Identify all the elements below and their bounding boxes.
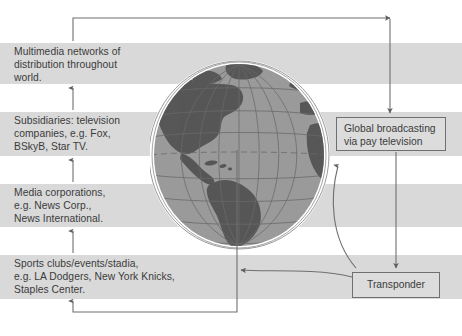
- label-media-corporations: Media corporations, e.g. News Corp., New…: [14, 186, 174, 226]
- label-sports-clubs: Sports clubs/events/stadia, e.g. LA Dodg…: [14, 257, 224, 297]
- label-multimedia-networks: Multimedia networks of distribution thro…: [14, 45, 174, 85]
- box-transponder: Transponder: [352, 272, 440, 298]
- globe-illustration: [150, 59, 333, 255]
- diagram-canvas: Multimedia networks of distribution thro…: [0, 0, 462, 336]
- label-subsidiaries: Subsidiaries: television companies, e.g.…: [14, 114, 180, 154]
- box-global-broadcasting: Global broadcasting via pay television: [336, 117, 446, 151]
- arrow-multimedia-top-run: [73, 18, 390, 41]
